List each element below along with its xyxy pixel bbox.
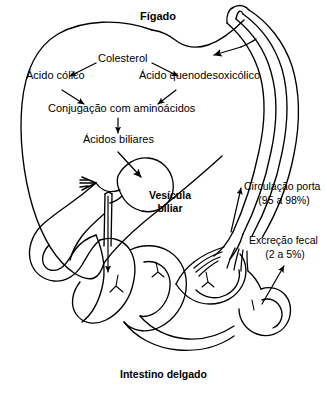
arrow-bileacids-to-gallbladder <box>118 152 141 177</box>
intestine-loop-1 <box>29 227 100 281</box>
intestine-lower-arc <box>124 322 234 350</box>
intestine-loop-3b <box>140 262 170 317</box>
duodenal-fold <box>40 183 96 227</box>
intestine-loop-5 <box>239 288 291 336</box>
conjugation-label: Conjugação com aminoácidos <box>48 102 195 114</box>
gallbladder-label-line1: Vesícula <box>140 190 200 202</box>
fecal-excretion-arrow <box>262 266 284 304</box>
portal-circulation-value: (95 a 98%) <box>244 195 324 207</box>
liver-outline-right <box>152 20 244 47</box>
cholic-acid-label: Ácido cólico <box>26 69 85 81</box>
intestine-loop-1b <box>43 235 96 270</box>
gallbladder-label-line2: biliar <box>140 203 200 215</box>
portal-circulation-label-line1: Circulação porta <box>244 181 320 193</box>
mesenteric-trunk-left <box>214 232 233 256</box>
bile-acids-label: Ácidos biliares <box>83 133 154 145</box>
intestine-lower-arc-2 <box>140 316 234 339</box>
intestine-loop-5b <box>262 299 282 328</box>
cystic-duct <box>96 183 120 192</box>
fecal-excretion-value: (2 a 5%) <box>249 249 321 261</box>
duodenal-fold-2 <box>70 214 104 260</box>
chenodeoxycholic-acid-label: Ácido quenodesoxicólico <box>139 69 260 81</box>
mesentery-fold-right <box>248 271 261 289</box>
intestine-loop-4b <box>196 270 239 298</box>
bile-duct-top <box>105 193 112 195</box>
portal-vessel-top-curl-2 <box>236 11 243 19</box>
small-intestine-label: Intestino delgado <box>0 369 327 381</box>
fecal-excretion-label-line1: Excreção fecal <box>249 235 318 247</box>
portal-inflow-arrow <box>214 47 241 55</box>
hepatic-duct-branches <box>80 177 96 190</box>
liver-label: Fígado <box>140 10 176 22</box>
cholesterol-label: Colesterol <box>98 52 148 64</box>
